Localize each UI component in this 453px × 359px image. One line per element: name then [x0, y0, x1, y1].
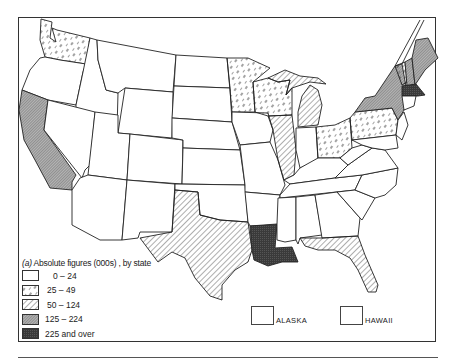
state-arizona — [72, 175, 127, 240]
state-montana — [97, 40, 176, 93]
legend-item: 0 – 24 — [22, 269, 151, 283]
swatch-diagonal — [22, 299, 39, 310]
state-new-mexico — [122, 180, 175, 240]
swatch-dark — [22, 328, 39, 339]
legend-title: (a) Absolute figures (000s) , by state — [22, 258, 151, 268]
legend-label: 25 – 49 — [47, 285, 75, 295]
state-kansas — [182, 148, 245, 185]
state-north-dakota — [174, 55, 230, 88]
state-michigan — [298, 85, 322, 127]
state-maine — [412, 38, 438, 85]
legend-item: 125 – 224 — [22, 312, 151, 326]
legend-label: 125 – 224 — [45, 314, 83, 324]
state-arkansas — [245, 192, 280, 226]
legend-item: 225 and over — [22, 327, 151, 341]
inset-hawaii: HAWAII — [340, 306, 393, 325]
state-florida — [300, 236, 378, 292]
legend-item: 50 – 124 — [22, 298, 151, 312]
legend-label: 225 and over — [45, 329, 95, 339]
swatch-none — [22, 270, 39, 281]
legend-title-text: Absolute figures (000s) , by state — [34, 258, 151, 268]
inset-alaska: ALASKA — [251, 306, 307, 325]
legend-title-prefix: (a) — [22, 258, 32, 268]
state-wisconsin — [253, 78, 292, 116]
state-south-dakota — [172, 86, 232, 122]
state-wyoming — [118, 88, 173, 138]
swatch-dense — [22, 314, 39, 325]
legend: (a) Absolute figures (000s) , by state 0… — [22, 258, 151, 341]
swatch-sparse — [22, 285, 39, 296]
state-massachusetts — [402, 84, 425, 96]
state-iowa — [232, 112, 273, 145]
legend-label: 50 – 124 — [47, 300, 80, 310]
hawaii-box — [340, 306, 363, 325]
state-connecticut — [402, 96, 416, 110]
legend-label: 0 – 24 — [53, 271, 77, 281]
legend-item: 25 – 49 — [22, 283, 151, 297]
alaska-box — [251, 306, 274, 325]
hawaii-label: HAWAII — [365, 317, 393, 325]
state-mississippi — [277, 197, 296, 242]
alaska-label: ALASKA — [276, 317, 307, 325]
state-colorado — [127, 134, 183, 184]
